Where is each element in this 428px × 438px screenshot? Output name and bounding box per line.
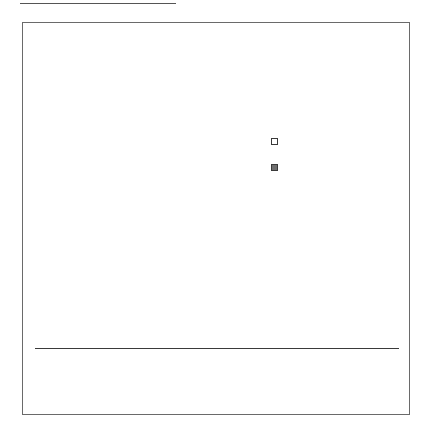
- top-divider-rule: [20, 3, 176, 4]
- chart-figure-frame: [22, 22, 410, 415]
- title-block: [35, 31, 375, 32]
- x-axis-line: [35, 348, 399, 349]
- plot-area: [37, 61, 397, 349]
